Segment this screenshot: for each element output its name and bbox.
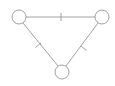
tick-mark-right bbox=[81, 46, 87, 51]
tick-mark-left bbox=[36, 43, 42, 48]
node-top-left bbox=[12, 10, 26, 24]
node-top-right bbox=[95, 10, 109, 24]
node-bottom bbox=[55, 65, 69, 79]
triangle-graph-diagram bbox=[0, 0, 115, 86]
edge-right bbox=[66, 23, 98, 66]
edge-left bbox=[23, 23, 58, 66]
